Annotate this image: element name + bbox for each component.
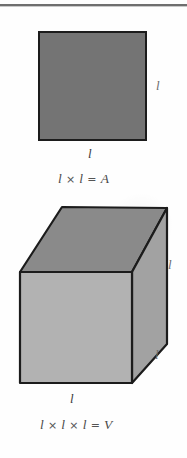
volume-formula-operand-3: l: [83, 417, 87, 432]
geometry-figure: l l l × l = A l l l l × l × l = V: [0, 0, 187, 458]
square-shape: [38, 31, 147, 141]
area-formula-equals-icon: =: [87, 173, 97, 186]
volume-formula-multiply-icon-2: ×: [69, 419, 79, 432]
area-formula-operand-2: l: [79, 171, 83, 186]
area-formula-operand-1: l: [58, 171, 62, 186]
area-formula: l × l = A: [58, 172, 109, 186]
volume-formula-equals-icon: =: [91, 419, 101, 432]
top-horizontal-rule: [0, 4, 187, 6]
cube-front-face: [20, 272, 132, 383]
volume-formula: l × l × l = V: [40, 418, 113, 432]
volume-formula-result: V: [104, 417, 113, 432]
square-bottom-side-label: l: [88, 147, 92, 160]
cube-bottom-edge-label: l: [70, 392, 74, 405]
square-right-side-label: l: [156, 79, 160, 92]
area-formula-multiply-icon: ×: [66, 173, 76, 186]
volume-formula-multiply-icon-1: ×: [48, 419, 58, 432]
volume-formula-operand-1: l: [40, 417, 44, 432]
volume-formula-operand-2: l: [61, 417, 65, 432]
cube-wrapper: [0, 196, 187, 396]
cube-depth-edge-label: l: [155, 348, 159, 361]
cube-vertical-edge-label: l: [168, 258, 172, 271]
area-formula-result: A: [101, 171, 110, 186]
cube-svg: [0, 196, 187, 396]
